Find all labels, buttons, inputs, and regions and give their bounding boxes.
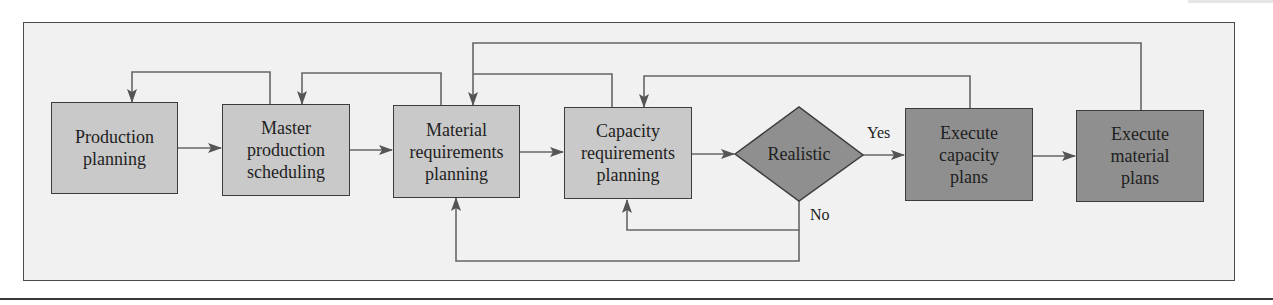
node-capacity-requirements-planning: Capacity requirements planning: [564, 107, 692, 199]
node-label: Execute material plans: [1111, 123, 1170, 189]
node-material-requirements-planning: Material requirements planning: [393, 105, 520, 198]
node-label: Material requirements planning: [410, 119, 504, 185]
node-production-planning: Production planning: [51, 102, 178, 194]
node-execute-material-plans: Execute material plans: [1076, 110, 1204, 202]
node-label: Production planning: [75, 126, 154, 170]
node-execute-capacity-plans: Execute capacity plans: [905, 108, 1033, 201]
no-label: No: [810, 206, 830, 224]
node-label: Master production scheduling: [247, 117, 325, 183]
decision-realistic-label: Realistic: [735, 143, 863, 165]
feedback-crp-to-mrp: [473, 74, 612, 107]
node-label: Execute capacity plans: [939, 122, 999, 188]
feedback-mps-to-pp: [132, 72, 270, 104]
node-label: Capacity requirements planning: [581, 120, 675, 186]
node-master-production-scheduling: Master production scheduling: [222, 104, 350, 196]
yes-label: Yes: [867, 124, 890, 142]
feedback-ecp-to-crp: [644, 76, 970, 108]
no-loop-to-crp: [627, 200, 799, 230]
feedback-mrp-to-mps: [302, 73, 441, 105]
